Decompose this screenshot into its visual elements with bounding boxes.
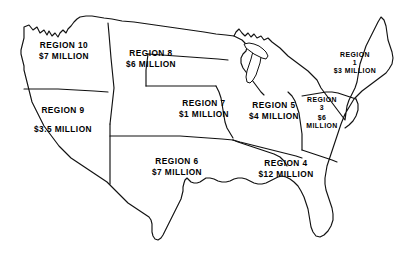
usa-national-outline	[21, 16, 393, 240]
map-svg-canvas	[0, 0, 407, 259]
us-regions-map: REGION 10 $7 MILLION REGION 8 $6 MILLION…	[0, 0, 407, 259]
